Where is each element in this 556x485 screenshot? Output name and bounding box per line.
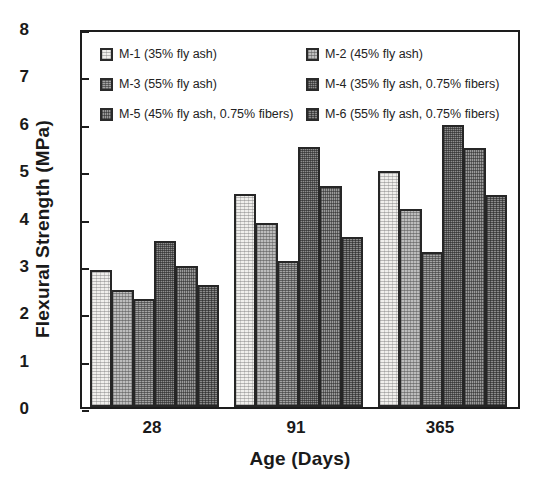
legend-item: M-2 (45% fly ash) xyxy=(306,44,423,64)
y-axis-tick xyxy=(82,410,89,412)
x-axis-tick-label: 365 xyxy=(395,418,485,438)
bar xyxy=(341,237,363,407)
bar-chart-figure: Flexural Strength (MPa) 012345678 M-1 (3… xyxy=(0,0,556,485)
bar xyxy=(485,195,507,407)
y-axis-title: Flexural Strength (MPa) xyxy=(32,64,54,394)
y-axis-tick-label: 2 xyxy=(0,305,29,322)
bar xyxy=(442,125,464,407)
legend-item: M-1 (35% fly ash) xyxy=(100,44,217,64)
bar xyxy=(255,223,277,407)
bar xyxy=(133,299,155,407)
legend-item: M-5 (45% fly ash, 0.75% fibers) xyxy=(100,104,293,124)
legend-swatch-icon xyxy=(100,108,113,121)
bar xyxy=(154,241,176,407)
legend-swatch-icon xyxy=(100,48,113,61)
legend-item-label: M-6 (55% fly ash, 0.75% fibers) xyxy=(325,107,499,121)
y-axis-tick xyxy=(82,221,89,223)
legend-item-label: M-2 (45% fly ash) xyxy=(325,47,423,61)
bar xyxy=(197,285,219,407)
legend-item: M-6 (55% fly ash, 0.75% fibers) xyxy=(306,104,499,124)
y-axis-tick xyxy=(82,126,89,128)
y-axis-tick xyxy=(82,363,89,365)
y-axis-tick-label: 5 xyxy=(0,163,29,180)
y-axis-tick xyxy=(82,78,89,80)
plot-area: M-1 (35% fly ash)M-2 (45% fly ash)M-3 (5… xyxy=(80,30,520,409)
bar xyxy=(378,171,400,407)
y-axis-tick xyxy=(82,315,89,317)
legend-swatch-icon xyxy=(306,108,319,121)
y-axis-tick xyxy=(82,268,89,270)
bar xyxy=(277,261,299,407)
bar xyxy=(111,290,133,407)
legend-item-label: M-4 (35% fly ash, 0.75% fibers) xyxy=(325,77,499,91)
bar xyxy=(298,147,320,407)
bar xyxy=(319,186,341,407)
bar xyxy=(90,270,112,407)
legend-swatch-icon xyxy=(306,78,319,91)
y-axis-tick-label: 4 xyxy=(0,211,29,228)
y-axis-tick-label: 0 xyxy=(0,400,29,417)
legend-item-label: M-5 (45% fly ash, 0.75% fibers) xyxy=(119,107,293,121)
x-axis-title: Age (Days) xyxy=(80,448,520,470)
bar xyxy=(399,209,421,407)
y-axis-tick-label: 7 xyxy=(0,68,29,85)
legend-swatch-icon xyxy=(100,78,113,91)
bar xyxy=(175,266,197,407)
y-axis-tick-label: 3 xyxy=(0,258,29,275)
legend-item: M-4 (35% fly ash, 0.75% fibers) xyxy=(306,74,499,94)
x-axis-tick-label: 91 xyxy=(251,418,341,438)
legend-item-label: M-3 (55% fly ash) xyxy=(119,77,217,91)
x-axis-tick-label: 28 xyxy=(107,418,197,438)
bar xyxy=(463,148,485,407)
bar xyxy=(234,194,256,407)
y-axis-tick-label: 8 xyxy=(0,21,29,38)
legend-swatch-icon xyxy=(306,48,319,61)
legend-item: M-3 (55% fly ash) xyxy=(100,74,217,94)
y-axis-tick-label: 1 xyxy=(0,353,29,370)
bar xyxy=(421,252,443,407)
y-axis-tick xyxy=(82,31,89,33)
legend-item-label: M-1 (35% fly ash) xyxy=(119,47,217,61)
y-axis-tick xyxy=(82,173,89,175)
y-axis-tick-label: 6 xyxy=(0,116,29,133)
